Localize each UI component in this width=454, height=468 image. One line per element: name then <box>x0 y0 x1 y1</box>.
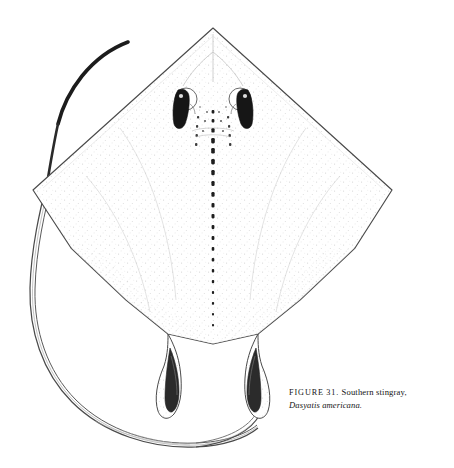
figure-caption: FIGURE 31. Southern stingray, Dasyatis a… <box>289 386 439 411</box>
disc-outline <box>33 28 392 344</box>
figure-label: FIGURE <box>289 388 324 397</box>
pectoral-disc <box>33 28 392 344</box>
figure-common-name: Southern stingray, <box>342 387 407 397</box>
figure-number: 31. <box>326 388 339 397</box>
figure-page: FIGURE 31. Southern stingray, Dasyatis a… <box>0 0 454 468</box>
figure-species-name: Dasyatis americana. <box>289 400 362 410</box>
